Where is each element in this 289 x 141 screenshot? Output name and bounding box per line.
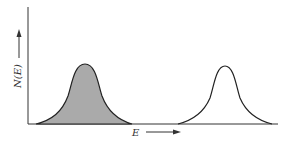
energy-distribution-diagram: N(E) E (0, 0, 289, 141)
y-axis-label: N(E) (12, 64, 23, 89)
x-axis-label: E (131, 127, 140, 138)
x-axis-label-group: E (131, 127, 181, 138)
right-arrowhead-icon (173, 130, 181, 135)
right-peak-outline (178, 66, 272, 124)
y-axis-label-group: N(E) (12, 29, 23, 89)
left-peak-filled (36, 64, 132, 124)
up-arrowhead-icon (17, 29, 22, 37)
